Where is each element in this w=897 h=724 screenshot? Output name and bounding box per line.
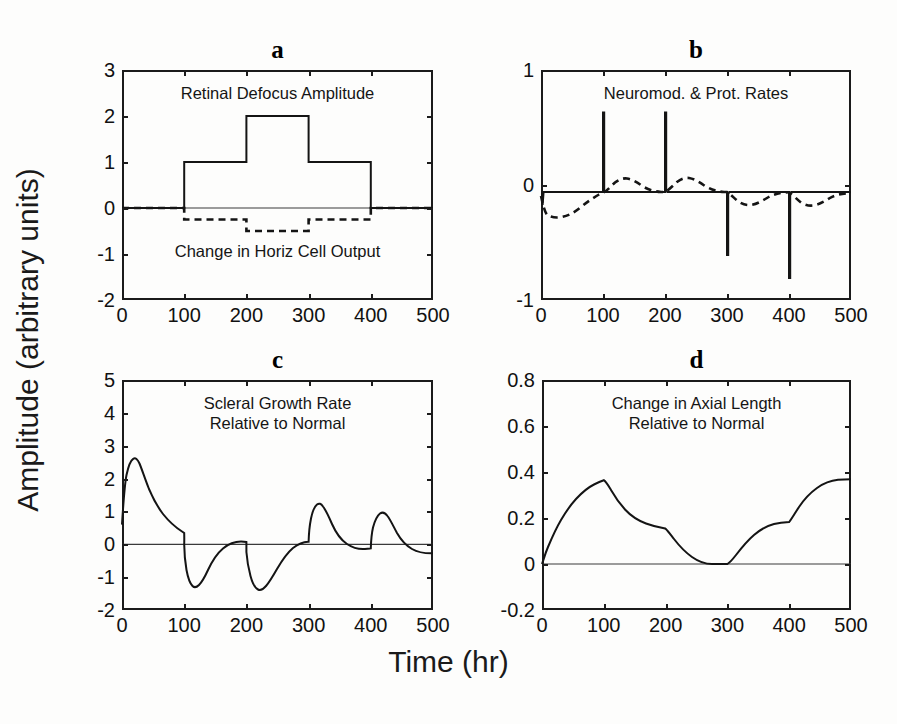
panel-d-xtick-mark-bottom	[727, 604, 729, 610]
panel-a-xtick-mark-top	[371, 70, 373, 76]
panel-a-ytick-mark-right	[427, 162, 433, 164]
panel-a-xtick-label: 400	[354, 304, 387, 327]
panel-d-ytick-mark-right	[845, 518, 851, 520]
panel-d: d Change in Axial Length Relative to Nor…	[542, 380, 851, 610]
panel-d-xtick-mark-top	[666, 380, 668, 386]
panel-c-ytick-label: 5	[104, 369, 115, 392]
panel-d-xtick-mark-bottom	[666, 604, 668, 610]
panel-b-series-protein	[541, 178, 851, 218]
panel-c-xtick-mark-bottom	[371, 604, 373, 610]
panel-d-xtick-label: 500	[834, 614, 867, 637]
panel-d-ytick-label: 0.8	[507, 369, 535, 392]
panel-c-xtick-label: 200	[230, 614, 263, 637]
panel-b-xtick-mark-top	[665, 70, 667, 76]
panel-a-ytick-label: -1	[97, 243, 115, 266]
panel-c-xtick-mark-top	[309, 380, 311, 386]
panel-b-xtick-mark-top	[789, 70, 791, 76]
panel-b-curves	[541, 70, 851, 300]
panel-b-xtick-mark-bottom	[789, 294, 791, 300]
panel-c-ytick-mark	[122, 577, 128, 579]
panel-b-xtick-label: 0	[535, 304, 546, 327]
panel-b-ytick-label: -1	[516, 289, 534, 312]
panel-c-ytick-mark	[122, 511, 128, 513]
panel-a-xtick-label: 200	[230, 304, 263, 327]
panel-c-xtick-mark-top	[184, 380, 186, 386]
panel-c-xtick-mark-top	[246, 380, 248, 386]
panel-a-ytick-mark-right	[427, 116, 433, 118]
panel-d-xtick-mark-top	[604, 380, 606, 386]
panel-b: b Neuromod. & Prot. Rates -1010100200300…	[541, 70, 851, 300]
panel-b-ytick-label: 0	[523, 174, 534, 197]
panel-d-xtick-mark-bottom	[789, 604, 791, 610]
panel-d-xtick-label: 100	[587, 614, 620, 637]
panel-a-ytick-mark-right	[427, 254, 433, 256]
panel-d-curves	[542, 380, 851, 610]
panel-a-xtick-mark-top	[309, 70, 311, 76]
panel-c-xtick-label: 300	[292, 614, 325, 637]
panel-b-xtick-label: 400	[772, 304, 805, 327]
panel-b-xtick-mark-bottom	[603, 294, 605, 300]
panel-d-xtick-label: 0	[536, 614, 547, 637]
panel-a-ytick-mark-right	[427, 208, 433, 210]
x-axis-label-text: Time (hr)	[388, 645, 509, 678]
panel-d-ytick-mark	[542, 564, 548, 566]
panel-b-ytick-label: 1	[523, 59, 534, 82]
panel-a-xtick-label: 0	[116, 304, 127, 327]
panel-b-xtick-mark-bottom	[727, 294, 729, 300]
panel-c-ytick-mark-right	[427, 413, 433, 415]
panel-c-series-growthrate	[122, 458, 433, 590]
panel-c-ytick-mark-right	[427, 446, 433, 448]
panel-c-ytick-mark-right	[427, 511, 433, 513]
panel-b-series-neuromod	[541, 113, 851, 279]
panel-c: c Scleral Growth Rate Relative to Normal…	[122, 380, 433, 610]
panel-a-series-horizcell	[122, 208, 433, 231]
panel-c-xtick-label: 500	[416, 614, 449, 637]
panel-d-ytick-mark-right	[845, 472, 851, 474]
panel-a-xtick-label: 100	[168, 304, 201, 327]
panel-b-xtick-mark-bottom	[665, 294, 667, 300]
panel-d-ytick-label: -0.2	[501, 599, 535, 622]
panel-b-xtick-label: 500	[834, 304, 867, 327]
panel-c-ytick-mark-right	[427, 479, 433, 481]
panel-d-ytick-mark-right	[845, 564, 851, 566]
y-axis-label-text: Amplitude (arbitrary units)	[11, 168, 45, 511]
panel-b-xtick-label: 200	[648, 304, 681, 327]
panel-a-xtick-mark-bottom	[371, 294, 373, 300]
figure-root: Amplitude (arbitrary units) Time (hr) a …	[0, 0, 897, 724]
panel-c-ytick-label: -1	[97, 566, 115, 589]
panel-d-xtick-label: 400	[773, 614, 806, 637]
x-axis-label: Time (hr)	[0, 645, 897, 679]
panel-a-ytick-label: -2	[97, 289, 115, 312]
panel-c-ytick-label: -2	[97, 599, 115, 622]
panel-c-ytick-label: 4	[104, 401, 115, 424]
panel-c-ytick-mark	[122, 544, 128, 546]
panel-d-ytick-label: 0.4	[507, 461, 535, 484]
panel-a-ytick-mark	[122, 208, 128, 210]
panel-a-ytick-label: 0	[104, 197, 115, 220]
panel-a-ytick-mark	[122, 254, 128, 256]
panel-b-xtick-label: 100	[586, 304, 619, 327]
panel-a-ytick-label: 1	[104, 151, 115, 174]
panel-c-xtick-mark-bottom	[246, 604, 248, 610]
panel-a-curves	[122, 70, 433, 300]
panel-b-ytick-mark	[541, 185, 547, 187]
panel-a-letter: a	[122, 36, 433, 64]
panel-c-ytick-label: 1	[104, 500, 115, 523]
panel-c-letter: c	[122, 346, 433, 374]
panel-a-xtick-mark-top	[246, 70, 248, 76]
panel-c-xtick-label: 100	[168, 614, 201, 637]
panel-a-ytick-mark	[122, 162, 128, 164]
y-axis-label: Amplitude (arbitrary units)	[2, 90, 54, 590]
panel-d-ytick-label: 0.2	[507, 507, 535, 530]
panel-a-series-defocus	[122, 116, 433, 208]
panel-d-xtick-label: 300	[711, 614, 744, 637]
panel-c-ytick-mark-right	[427, 544, 433, 546]
panel-a-xtick-mark-bottom	[309, 294, 311, 300]
panel-b-ytick-mark-right	[845, 185, 851, 187]
panel-d-ytick-mark	[542, 472, 548, 474]
panel-c-ytick-label: 2	[104, 467, 115, 490]
panel-d-letter: d	[542, 346, 851, 374]
panel-b-xtick-mark-top	[727, 70, 729, 76]
panel-c-xtick-mark-bottom	[184, 604, 186, 610]
panel-c-ytick-mark	[122, 413, 128, 415]
